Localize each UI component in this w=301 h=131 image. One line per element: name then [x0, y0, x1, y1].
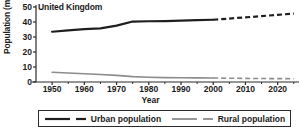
series-line-urban — [52, 14, 294, 32]
population-line-chart: Population (millions) 01020304050 195019… — [0, 0, 301, 131]
legend-label-rural: Rural population — [218, 114, 286, 124]
legend-line-sample-urban — [44, 115, 88, 123]
legend-item-rural: Rural population — [171, 114, 286, 124]
legend-label-urban: Urban population — [91, 114, 161, 124]
x-axis-title: Year — [0, 95, 301, 105]
legend-line-sample-rural — [171, 115, 215, 123]
legend-item-urban: Urban population — [44, 114, 161, 124]
series-line-rural — [52, 72, 294, 78]
chart-legend: Urban population Rural population — [38, 110, 291, 127]
